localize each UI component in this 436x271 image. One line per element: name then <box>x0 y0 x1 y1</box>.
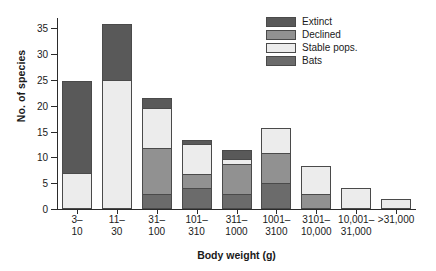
legend-item: Extinct <box>266 16 358 28</box>
x-axis-tick-label: >31,000 <box>376 214 416 226</box>
bar-segment-stable-pops <box>381 199 411 209</box>
x-axis-tick-labels: 3–1011–3031–100101–310311–10001001–31003… <box>57 214 416 248</box>
bar-segment-declined <box>301 194 331 209</box>
x-axis-title: Body weight (g) <box>57 249 416 261</box>
bar-segment-bats <box>261 183 291 209</box>
bar-segment-declined <box>142 148 172 194</box>
bar-segment-declined <box>222 164 252 195</box>
y-axis-tick-label: 0 <box>42 204 48 215</box>
legend-swatch <box>266 30 296 40</box>
x-axis-tick-label-line: 31– <box>137 214 177 226</box>
y-axis-tick-label: 5 <box>42 178 48 189</box>
legend-item: Stable pops. <box>266 42 358 54</box>
x-axis-tick-label-line: 10,001– <box>336 214 376 226</box>
x-axis-tick-label: 311–1000 <box>217 214 257 238</box>
bar-segment-extinct <box>62 81 92 174</box>
x-axis-tick-label: 3–10 <box>57 214 97 238</box>
bar <box>222 150 252 209</box>
bar <box>301 166 331 209</box>
bar-segment-declined <box>182 174 212 189</box>
x-axis-tick-label-line: 100 <box>137 226 177 238</box>
legend-label: Declined <box>302 30 341 40</box>
x-axis-tick-label-line: 11– <box>97 214 137 226</box>
x-axis-tick-label-line: 10 <box>57 226 97 238</box>
y-axis-line <box>57 18 58 210</box>
plot-area: 05101520253035 <box>57 18 416 210</box>
legend-item: Declined <box>266 29 358 41</box>
y-axis-tick <box>51 28 57 29</box>
bar-segment-bats <box>182 188 212 209</box>
y-axis-tick <box>51 80 57 81</box>
x-axis-tick-label: 101–310 <box>177 214 217 238</box>
bar-segment-bats <box>142 194 172 209</box>
bar-segment-declined <box>261 153 291 184</box>
y-axis-tick <box>51 183 57 184</box>
legend-swatch <box>266 56 296 66</box>
y-axis-tick-label: 15 <box>37 126 48 137</box>
x-axis-tick-label-line: 310 <box>177 226 217 238</box>
x-axis-tick-label: 11–30 <box>97 214 137 238</box>
x-axis-tick-label-line: >31,000 <box>376 214 416 226</box>
y-axis-tick <box>51 54 57 55</box>
y-axis-title: No. of species <box>15 31 27 141</box>
y-axis-tick-label: 30 <box>37 49 48 60</box>
legend-label: Bats <box>302 56 322 66</box>
bar-segment-stable-pops <box>261 128 291 154</box>
x-axis-tick-label: 1001–3100 <box>256 214 296 238</box>
x-axis-tick-label-line: 10,000 <box>296 226 336 238</box>
stacked-bar-chart: No. of species 05101520253035 3–1011–303… <box>0 0 436 271</box>
bar-segment-stable-pops <box>301 166 331 194</box>
x-axis-tick-label-line: 3101– <box>296 214 336 226</box>
y-axis-tick <box>51 106 57 107</box>
x-axis-tick-label-line: 3– <box>57 214 97 226</box>
x-axis-tick-label: 3101–10,000 <box>296 214 336 238</box>
y-axis-tick <box>51 209 57 210</box>
x-axis-tick-label: 31–100 <box>137 214 177 238</box>
bar <box>182 140 212 209</box>
legend-label: Stable pops. <box>302 43 358 53</box>
legend-swatch <box>266 43 296 53</box>
x-axis-tick-label-line: 1000 <box>217 226 257 238</box>
x-axis-tick-label-line: 311– <box>217 214 257 226</box>
bar-segment-stable-pops <box>142 108 172 149</box>
x-axis-tick-label-line: 101– <box>177 214 217 226</box>
x-axis-tick-label-line: 3100 <box>256 226 296 238</box>
bar-segment-stable-pops <box>62 173 92 209</box>
bar-segment-stable-pops <box>102 80 132 209</box>
y-axis-tick-label: 25 <box>37 74 48 85</box>
y-axis-tick-label: 10 <box>37 152 48 163</box>
bar <box>62 81 92 209</box>
y-axis-tick <box>51 132 57 133</box>
bar <box>341 188 371 209</box>
legend-label: Extinct <box>302 17 332 27</box>
bar <box>381 199 411 209</box>
bar <box>142 98 172 209</box>
legend-item: Bats <box>266 55 358 67</box>
bar-segment-stable-pops <box>341 188 371 209</box>
x-axis-tick-label-line: 1001– <box>256 214 296 226</box>
legend: ExtinctDeclinedStable pops.Bats <box>266 16 358 67</box>
bar-segment-stable-pops <box>182 144 212 175</box>
bar-segment-bats <box>222 194 252 209</box>
legend-swatch <box>266 17 296 27</box>
y-axis-tick-label: 20 <box>37 100 48 111</box>
bar <box>261 128 291 209</box>
x-axis-tick-label: 10,001–31,000 <box>336 214 376 238</box>
y-axis-tick-label: 35 <box>37 23 48 34</box>
y-axis-tick <box>51 157 57 158</box>
x-axis-tick-label-line: 31,000 <box>336 226 376 238</box>
bar-segment-extinct <box>102 24 132 81</box>
x-axis-tick-label-line: 30 <box>97 226 137 238</box>
bar <box>102 24 132 209</box>
